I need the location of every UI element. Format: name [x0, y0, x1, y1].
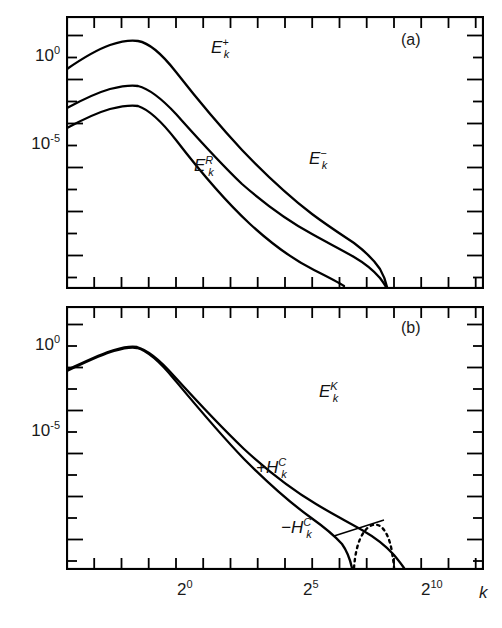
xtick-2pow0-exp: 0	[186, 578, 192, 590]
label-Ek-minus-sub: k	[322, 159, 328, 171]
label-Ek-K-sub: k	[333, 392, 339, 404]
label-Ek-plus-sub: k	[224, 48, 230, 60]
panel-b: (b) EKk +HCk −HCk	[66, 306, 484, 570]
label-Ek-R-sup: R	[205, 154, 213, 166]
panel-b-ytick-1e-5: 10-5	[10, 421, 60, 441]
label-Ek-K-base: E	[319, 382, 330, 401]
xtick-2pow5: 25	[303, 580, 319, 600]
label-minus-Hk-C: −HCk	[281, 518, 317, 538]
curve-Ek-R	[67, 106, 344, 286]
panel-a-xticks	[94, 17, 476, 288]
label-Ek-minus-base: E	[309, 149, 320, 168]
label-minus-Hk-C-sup: C	[303, 516, 311, 528]
label-plus-Hk-C: +HCk	[256, 458, 292, 478]
curve-Ek-plus	[67, 41, 387, 287]
panel-a-ytick-1e0: 100	[16, 46, 60, 66]
panel-a-yticks	[67, 36, 483, 278]
panel-b-tag: (b)	[401, 319, 421, 337]
label-plus-Hk-C-base: +H	[256, 458, 278, 477]
panel-b-ytick-1e0: 100	[16, 335, 60, 355]
panel-a: (a) E+k ERk E−k	[66, 16, 484, 289]
panel-a-ytick-1e0-mantissa: 10	[35, 46, 54, 65]
xtick-2pow10: 210	[421, 580, 443, 600]
label-Ek-plus-sup: +	[222, 36, 228, 48]
panel-b-ytick-1e0-exp: 0	[54, 333, 60, 345]
label-minus-Hk-C-base: −H	[281, 518, 303, 537]
label-Ek-minus: E−k	[309, 149, 332, 169]
panel-b-ytick-1e0-mantissa: 10	[35, 335, 54, 354]
panel-a-frame	[67, 17, 483, 288]
panel-a-ytick-1e0-exp: 0	[54, 44, 60, 56]
panel-a-tag: (a)	[401, 31, 421, 49]
panel-a-plot	[66, 16, 484, 289]
label-Ek-plus-base: E	[211, 38, 222, 57]
xaxis-label-k: k	[479, 583, 488, 603]
label-Ek-R-base: E	[194, 156, 205, 175]
label-Ek-plus: E+k	[211, 38, 234, 58]
label-plus-Hk-C-sup: C	[278, 456, 286, 468]
xtick-2pow10-exp: 10	[430, 578, 442, 590]
figure-container: (a) E+k ERk E−k 100 10-5	[0, 0, 502, 628]
panel-b-yticks	[67, 325, 483, 562]
panel-a-ytick-1e-5-exp: -5	[50, 132, 60, 144]
curve-Ek-minus	[67, 86, 386, 287]
panel-a-ytick-1e-5: 10-5	[10, 134, 60, 154]
leader-line-minus-Hk-C	[332, 518, 392, 546]
panel-b-plot	[66, 306, 484, 570]
panel-a-ytick-1e-5-mantissa: 10	[31, 134, 50, 153]
label-Ek-R: ERk	[194, 156, 219, 176]
label-Ek-R-sub: k	[208, 166, 214, 178]
label-Ek-K: EKk	[319, 382, 343, 402]
panel-b-ytick-1e-5-exp: -5	[50, 419, 60, 431]
panel-b-ytick-1e-5-mantissa: 10	[31, 421, 50, 440]
label-plus-Hk-C-sub: k	[281, 468, 287, 480]
xtick-2pow0: 20	[177, 580, 193, 600]
label-Ek-minus-sup: −	[320, 147, 326, 159]
label-minus-Hk-C-sub: k	[306, 528, 312, 540]
xtick-2pow5-exp: 5	[312, 578, 318, 590]
label-Ek-K-sup: K	[330, 380, 337, 392]
